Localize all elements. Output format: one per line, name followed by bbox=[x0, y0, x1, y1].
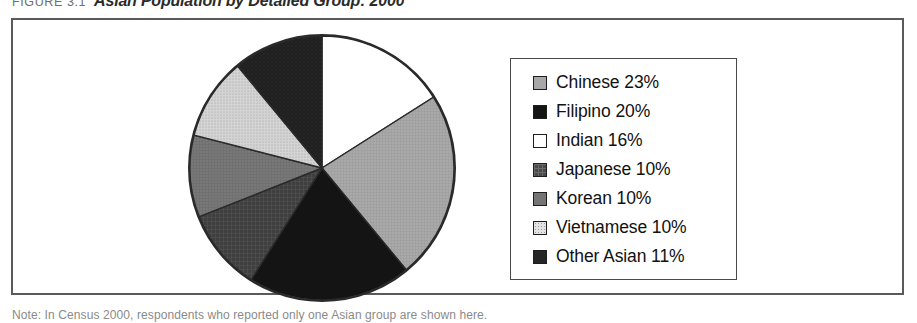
figure-number: FIGURE 3.1 bbox=[12, 0, 86, 9]
legend-swatch-indian bbox=[533, 134, 547, 148]
legend-swatch-korean bbox=[533, 192, 547, 206]
legend-item-korean: Korean 10% bbox=[533, 184, 736, 213]
legend-swatch-filipino bbox=[533, 105, 547, 119]
legend-label-korean: Korean 10% bbox=[556, 190, 651, 208]
chart-legend: Chinese 23% Filipino 20% Indian 16% Japa… bbox=[510, 58, 737, 280]
legend-swatch-chinese bbox=[533, 76, 547, 90]
pie-chart bbox=[187, 33, 457, 303]
legend-label-japanese: Japanese 10% bbox=[556, 161, 671, 179]
legend-item-japanese: Japanese 10% bbox=[533, 155, 736, 184]
legend-label-other-asian: Other Asian 11% bbox=[556, 248, 685, 266]
legend-label-filipino: Filipino 20% bbox=[556, 103, 650, 121]
legend-item-other-asian: Other Asian 11% bbox=[533, 242, 736, 271]
legend-swatch-other-asian bbox=[533, 250, 547, 264]
legend-item-filipino: Filipino 20% bbox=[533, 97, 736, 126]
figure-caption: FIGURE 3.1 Asian Population by Detailed … bbox=[12, 0, 404, 14]
figure-frame: Chinese 23% Filipino 20% Indian 16% Japa… bbox=[11, 18, 904, 295]
legend-swatch-vietnamese bbox=[533, 221, 547, 235]
legend-item-chinese: Chinese 23% bbox=[533, 68, 736, 97]
figure-title: Asian Population by Detailed Group: 2000 bbox=[94, 0, 404, 10]
legend-swatch-japanese bbox=[533, 163, 547, 177]
pie-slices bbox=[190, 36, 454, 300]
source-note: Note: In Census 2000, respondents who re… bbox=[12, 308, 905, 323]
legend-label-indian: Indian 16% bbox=[556, 132, 643, 150]
legend-item-vietnamese: Vietnamese 10% bbox=[533, 213, 736, 242]
legend-label-chinese: Chinese 23% bbox=[556, 74, 659, 92]
legend-item-indian: Indian 16% bbox=[533, 126, 736, 155]
legend-label-vietnamese: Vietnamese 10% bbox=[556, 219, 687, 237]
